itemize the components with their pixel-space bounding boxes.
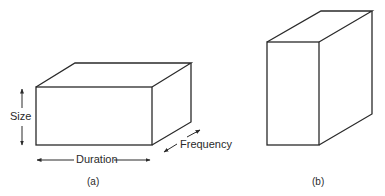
diagram-canvas: [0, 0, 385, 196]
box-b-front-face: [267, 42, 319, 145]
box-a-top-face: [36, 63, 191, 87]
box-a: [36, 63, 191, 145]
caption-b: (b): [312, 177, 324, 187]
caption-a: (a): [87, 177, 99, 187]
box-a-front-face: [36, 87, 152, 145]
size-label: Size: [10, 111, 31, 122]
duration-label: Duration: [76, 154, 118, 165]
box-b-side-face: [319, 11, 372, 145]
box-b: [267, 11, 372, 145]
box-b-top-face: [267, 11, 372, 42]
frequency-label: Frequency: [180, 139, 232, 150]
